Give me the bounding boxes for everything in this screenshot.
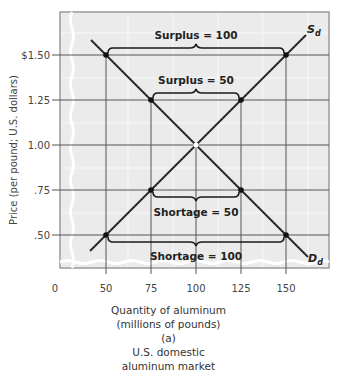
x-tick-label: 150 (276, 283, 295, 294)
y-tick-label: 1.00 (28, 140, 50, 151)
x-tick-label: 125 (231, 283, 250, 294)
x-axis-title-line1: Quantity of aluminum (0, 303, 337, 317)
y-tick-label: .50 (34, 230, 50, 241)
x-tick-label: 0 (52, 283, 58, 294)
x-axis-title-line2: (millions of pounds) (0, 317, 337, 331)
subtitle-line1: U.S. domestic (0, 345, 337, 359)
panel-label: (a) (0, 331, 337, 345)
x-tick-label: 100 (186, 283, 205, 294)
subtitle-line2: aluminum market (0, 359, 337, 373)
x-tick-label: 50 (100, 283, 113, 294)
surplus-50-label: Surplus = 50 (158, 74, 234, 86)
shortage-100-label: Shortage = 100 (150, 250, 242, 262)
surplus-100-label: Surplus = 100 (154, 29, 237, 41)
x-tick-label: 75 (145, 283, 158, 294)
equilibrium-point (194, 143, 199, 148)
y-axis-title: Price (per pound; U.S. dollars) (8, 75, 19, 225)
y-tick-label: $1.50 (21, 50, 50, 61)
shortage-50-label: Shortage = 50 (154, 206, 239, 218)
y-tick-label: .75 (34, 185, 50, 196)
y-tick-label: 1.25 (28, 95, 50, 106)
